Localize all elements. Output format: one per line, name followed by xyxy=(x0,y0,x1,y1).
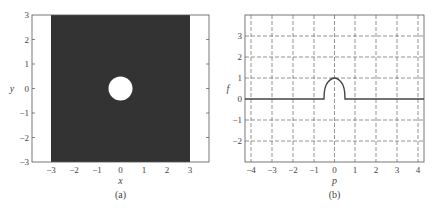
ytick-label: 3 xyxy=(238,31,243,41)
xtick-label: 1 xyxy=(142,165,147,175)
xtick-label: −3 xyxy=(267,165,277,175)
xtick-label: −2 xyxy=(69,165,79,175)
xtick-label: 0 xyxy=(332,165,337,175)
figure: 3 2 1 0 −1 −2 −3 −3 −2 −1 0 1 2 3 x y (a… xyxy=(0,0,438,210)
x-axis-label: x xyxy=(117,175,123,186)
panel-a: 3 2 1 0 −1 −2 −3 −3 −2 −1 0 1 2 3 x y (a… xyxy=(9,10,209,201)
x-axis-label: p xyxy=(331,175,337,186)
ytick-label: 0 xyxy=(25,84,30,94)
y-axis-label: f xyxy=(227,83,231,94)
xtick-label: 4 xyxy=(416,165,421,175)
xtick-label: 3 xyxy=(188,165,193,175)
ytick-label: −2 xyxy=(19,133,29,143)
white-disk xyxy=(109,77,133,101)
panel-caption-a: (a) xyxy=(115,189,126,201)
grid-b xyxy=(245,15,424,162)
ytick-label: −3 xyxy=(19,157,29,167)
panel-caption-b: (b) xyxy=(329,189,341,201)
ytick-label: 0 xyxy=(238,94,243,104)
xtick-label: 2 xyxy=(374,165,379,175)
xtick-label: 2 xyxy=(165,165,170,175)
xtick-label: 3 xyxy=(395,165,400,175)
ytick-label: 3 xyxy=(25,10,30,20)
xtick-label: −2 xyxy=(288,165,298,175)
y-axis-label: y xyxy=(9,83,15,94)
ytick-label: 2 xyxy=(25,35,30,45)
ytick-label: 1 xyxy=(25,59,30,69)
panel-b: 3 2 1 0 −1 −2 −4 −3 −2 −1 0 1 2 3 4 p f … xyxy=(227,15,424,201)
xtick-label: −1 xyxy=(92,165,102,175)
ytick-label: −2 xyxy=(232,136,242,146)
xtick-label: −3 xyxy=(46,165,56,175)
xtick-label: 1 xyxy=(353,165,358,175)
ytick-label: 2 xyxy=(238,52,243,62)
ytick-label: 1 xyxy=(238,73,243,83)
xtick-label: −4 xyxy=(246,165,256,175)
xtick-label: 0 xyxy=(118,165,123,175)
xtick-label: −1 xyxy=(309,165,319,175)
ytick-label: −1 xyxy=(232,115,242,125)
ytick-label: −1 xyxy=(19,108,29,118)
